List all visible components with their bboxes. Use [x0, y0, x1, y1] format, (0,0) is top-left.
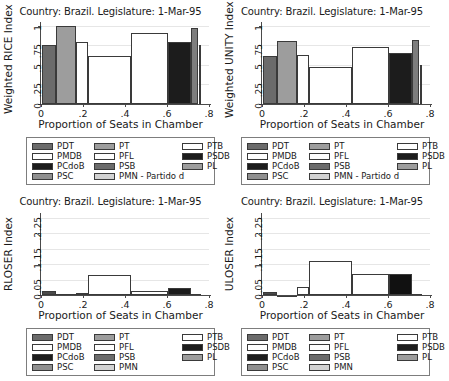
- legend-label: PMDB: [272, 343, 297, 352]
- legend-label: PFL: [119, 343, 134, 352]
- legend-item[interactable]: PMN: [309, 362, 397, 372]
- legend-item[interactable]: PSDB: [397, 342, 449, 352]
- plot-canvas: 0.25.5.7510.2.4.6.8: [262, 22, 430, 104]
- legend-item[interactable]: PL: [397, 352, 449, 362]
- legend-item[interactable]: PMN: [94, 362, 182, 372]
- legend-item[interactable]: PSC: [247, 362, 309, 372]
- legend-item[interactable]: PCdoB: [247, 352, 309, 362]
- legend-item[interactable]: PMDB: [247, 342, 309, 352]
- histogram-bar: [168, 288, 191, 295]
- x-tick-mark: [209, 104, 210, 107]
- y-axis-label: Weighted RICE Index: [2, 18, 16, 114]
- legend-item[interactable]: PSB: [309, 161, 397, 171]
- legend-label: PDT: [57, 142, 74, 151]
- legend-column: PDTPMDBPCdoBPSC: [247, 332, 309, 373]
- legend-swatch: [397, 153, 418, 160]
- histogram-bar: [420, 65, 423, 104]
- legend-item[interactable]: PSB: [94, 161, 182, 171]
- gridline: [41, 249, 209, 250]
- legend-item[interactable]: PCdoB: [32, 161, 94, 171]
- legend-label: PSC: [57, 363, 73, 372]
- gridline: [41, 233, 209, 234]
- legend-swatch: [247, 143, 268, 150]
- legend-item[interactable]: PSDB: [397, 151, 449, 161]
- legend-item[interactable]: PFL: [94, 342, 182, 352]
- x-tick-mark: [304, 295, 305, 298]
- y-tick-label: .05: [33, 279, 43, 293]
- histogram-bar: [352, 274, 390, 295]
- histogram-bar: [389, 53, 412, 104]
- legend-item[interactable]: PCdoB: [32, 352, 94, 362]
- legend-item[interactable]: PT: [94, 332, 182, 342]
- y-tick-label: .2: [33, 232, 43, 241]
- legend-column: PTPFLPSBPMN - Partido d: [94, 141, 182, 182]
- legend-item[interactable]: PT: [309, 141, 397, 151]
- x-tick-mark: [83, 295, 84, 298]
- legend-item[interactable]: PSC: [32, 362, 94, 372]
- legend: PDTPMDBPCdoBPSCPTPFLPSBPMN - Partido dPT…: [26, 137, 215, 185]
- legend-item[interactable]: PFL: [309, 342, 397, 352]
- legend-label: PFL: [334, 152, 349, 161]
- y-tick-label: .75: [254, 44, 264, 58]
- legend-item[interactable]: PL: [397, 161, 449, 171]
- legend-item[interactable]: PTB: [397, 141, 449, 151]
- legend-item[interactable]: PDT: [32, 332, 94, 342]
- legend-item[interactable]: PDT: [247, 332, 309, 342]
- legend-swatch: [32, 354, 53, 361]
- legend-item[interactable]: PMDB: [32, 151, 94, 161]
- legend-label: PCdoB: [272, 353, 300, 362]
- plot-area: 0.05.1.15.2.250.2.4.6.8: [41, 213, 209, 295]
- y-tick-label: .1: [254, 263, 264, 272]
- gridline: [262, 233, 430, 234]
- legend-item[interactable]: PDT: [247, 141, 309, 151]
- legend-swatch: [182, 344, 203, 351]
- legend: PDTPMDBPCdoBPSCPTPFLPSBPMN - Partido dPT…: [241, 137, 430, 185]
- x-axis-label: Proportion of Seats in Chamber: [221, 309, 443, 321]
- legend-label: PSB: [119, 353, 135, 362]
- legend-column: PDTPMDBPCdoBPSC: [32, 141, 94, 182]
- legend-item[interactable]: PSB: [309, 352, 397, 362]
- y-tick-label: .1: [33, 263, 43, 272]
- legend-label: PSDB: [422, 343, 445, 352]
- legend-label: PSC: [272, 172, 288, 181]
- legend-column: PDTPMDBPCdoBPSC: [247, 141, 309, 182]
- legend-label: PCdoB: [57, 353, 85, 362]
- legend-item[interactable]: PFL: [309, 151, 397, 161]
- legend-item[interactable]: PSB: [94, 352, 182, 362]
- legend-label: PMDB: [272, 152, 297, 161]
- legend-item[interactable]: PSC: [247, 171, 309, 181]
- legend-column: PTPFLPSBPMN - Partido d: [309, 141, 397, 182]
- legend-label: PFL: [334, 343, 349, 352]
- y-tick-label: .75: [33, 44, 43, 58]
- panel-weighted-unity: Country: Brazil. Legislature: 1-Mar-95 W…: [221, 0, 443, 190]
- legend: PDTPMDBPCdoBPSCPTPFLPSBPMNPTBPSDBPL: [26, 328, 215, 376]
- histogram-bar: [263, 56, 277, 104]
- legend-item[interactable]: PFL: [94, 151, 182, 161]
- x-tick-mark: [430, 104, 431, 107]
- legend-label: PT: [119, 333, 129, 342]
- legend-item[interactable]: PT: [309, 332, 397, 342]
- legend-swatch: [94, 143, 115, 150]
- legend-item[interactable]: PTB: [397, 332, 449, 342]
- gridline: [262, 26, 430, 27]
- legend-label: PDT: [272, 333, 289, 342]
- plot-canvas: 0.05.1.15.2.250.2.4.6.8: [41, 213, 209, 295]
- legend-item[interactable]: PMN - Partido d: [94, 171, 182, 181]
- histogram-bar: [389, 274, 412, 295]
- histogram-bar: [88, 56, 131, 104]
- legend-item[interactable]: PMN - Partido d: [309, 171, 397, 181]
- legend-label: PMDB: [57, 152, 82, 161]
- legend-item[interactable]: PT: [94, 141, 182, 151]
- y-tick-label: .15: [33, 248, 43, 262]
- panel-uloser: Country: Brazil. Legislature: 1-Mar-95 U…: [221, 190, 443, 381]
- legend-item[interactable]: PMDB: [247, 151, 309, 161]
- legend-item[interactable]: PMDB: [32, 342, 94, 352]
- x-tick-mark: [346, 295, 347, 298]
- histogram-bar: [309, 67, 352, 104]
- y-tick-label: .25: [254, 83, 264, 97]
- legend-label: PSB: [119, 162, 135, 171]
- legend-item[interactable]: PCdoB: [247, 161, 309, 171]
- legend-item[interactable]: PDT: [32, 141, 94, 151]
- legend-item[interactable]: PSC: [32, 171, 94, 181]
- legend-swatch: [397, 334, 418, 341]
